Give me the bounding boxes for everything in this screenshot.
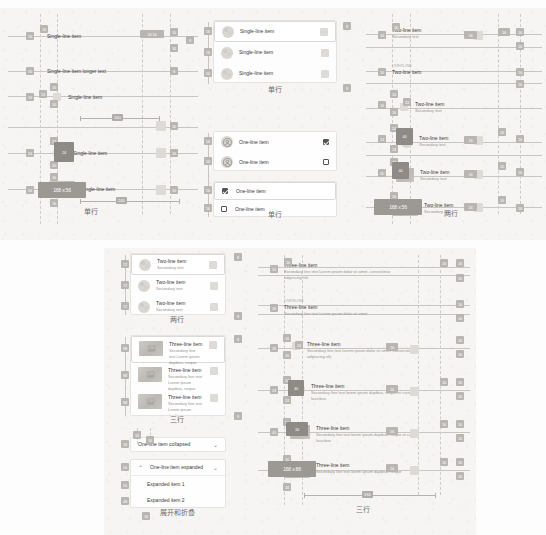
section-caption: 展开和折叠 (160, 509, 195, 518)
trailing-icon[interactable] (156, 185, 166, 195)
spec-badge: 16 (284, 258, 292, 266)
section-caption: 三行 (170, 416, 184, 425)
spec-badge: 40 (270, 428, 278, 436)
spec-badge: 16 (516, 80, 524, 88)
trailing-icon[interactable] (410, 387, 419, 396)
list-item[interactable]: One-line item (214, 132, 336, 152)
spec-badge: 16 (456, 259, 464, 267)
checkbox-checked[interactable] (222, 188, 228, 194)
spec-badge: 16 (392, 23, 400, 31)
trailing-icon[interactable] (410, 429, 419, 438)
list-item-secondary: Secondary line text Lorem ipsum dolor si… (307, 348, 419, 360)
trailing-icon[interactable] (209, 341, 217, 349)
spec-badge: 16 (456, 458, 464, 466)
list-item[interactable]: Single-line item longer text (40, 64, 190, 78)
trailing-icon[interactable] (209, 261, 217, 269)
list-item[interactable]: Three-line item Secondary line text Lore… (292, 341, 442, 360)
list-item[interactable]: One-line item (214, 182, 336, 200)
list-item[interactable]: Two-line item Secondary text (131, 275, 225, 296)
checkbox[interactable] (221, 206, 227, 212)
list-item[interactable]: Single-line item (40, 29, 190, 43)
list-item-text: Single-line item (239, 49, 315, 56)
spec-badge: 16 (170, 122, 178, 130)
list-card-two-line: Two-line item Secondary text Two-line it… (130, 253, 226, 315)
trailing-icon[interactable] (321, 70, 329, 78)
list-item[interactable]: OVERLINE Two-line item (392, 64, 522, 82)
spec-badge: 24 (295, 341, 303, 349)
list-card-three-line: Three-line item Secondary line text Lore… (130, 335, 226, 416)
list-item[interactable]: One-line item (214, 152, 336, 171)
list-item[interactable]: Two-line item Secondary text (131, 296, 225, 315)
list-item-title: Two-line item (156, 279, 204, 286)
trailing-icon[interactable] (210, 367, 218, 375)
list-item-title: One-line item (239, 159, 323, 166)
checkbox-checked[interactable] (323, 139, 329, 145)
list-item-secondary: Secondary text (156, 307, 204, 313)
list-item[interactable]: Three-line item Secondary line text Lore… (131, 390, 225, 416)
expanded-child-label: Expanded item 1 (147, 481, 185, 488)
spec-badge: 56 (204, 69, 212, 77)
spec-badge: 24 (283, 396, 291, 404)
list-item[interactable]: Single-line item (46, 90, 196, 104)
spec-badge: 24 (378, 135, 386, 143)
chevron-up-icon[interactable]: ⌃ (138, 465, 143, 471)
spec-badge: 16 (516, 28, 524, 36)
list-item-text: Single-line item (68, 94, 189, 101)
section-caption: 单行 (84, 208, 98, 217)
trailing-icon[interactable] (210, 282, 218, 290)
spec-badge: 16 (146, 436, 154, 444)
list-item-title: Three-line item (168, 394, 204, 401)
trailing-icon[interactable] (210, 394, 218, 402)
chevron-down-icon[interactable]: ⌄ (213, 465, 218, 471)
spec-badge: 40 (396, 128, 413, 145)
section-caption: 单行 (268, 86, 282, 95)
list-item-title: One-line item (235, 206, 329, 213)
expansion-panel-expanded: ⌃ One-line item expanded ⌄ Expanded item… (130, 459, 226, 508)
spec-badge: 8 (343, 22, 351, 30)
list-item[interactable]: Two-line item Secondary text (131, 254, 225, 275)
list-item[interactable]: Three-line item Secondary line text Lore… (284, 262, 434, 281)
spec-badge: 8 (234, 253, 242, 261)
trailing-icon[interactable] (320, 28, 328, 36)
trailing-icon[interactable] (321, 49, 329, 57)
list-item[interactable]: Two-line item Secondary text (396, 166, 530, 184)
dimension-label: 336 (362, 491, 373, 498)
trailing-icon[interactable] (156, 148, 166, 158)
spec-badge: 16 (142, 512, 150, 520)
spec-badge: 40 (288, 380, 304, 396)
dimension-label: 160 (112, 114, 123, 121)
list-item[interactable]: Three-line item Secondary line text Lore… (131, 363, 225, 390)
expansion-panel-collapsed[interactable]: One-line item collapsed ⌄ (130, 437, 226, 452)
list-item[interactable]: Expanded item 2 (131, 492, 225, 508)
avatar (139, 259, 151, 271)
list-item[interactable]: ⌃ One-line item expanded ⌄ (131, 460, 225, 475)
spec-badge: 16 (170, 28, 178, 36)
list-item-title: Three-line item (284, 262, 434, 269)
trailing-icon[interactable] (210, 303, 218, 311)
spec-badge: 16 (440, 420, 448, 428)
list-item[interactable]: Three-line item Secondary line text lore… (292, 383, 442, 402)
spec-badge: 16 (283, 334, 291, 342)
list-item-secondary: Secondary text (157, 265, 203, 271)
list-item[interactable]: Single-line item (214, 63, 336, 83)
size-badge: 168 x 56 (374, 199, 422, 215)
list-item[interactable]: Three-line item Secondary line text Lore… (131, 336, 225, 363)
list-item[interactable]: Expanded item 1 (131, 476, 225, 492)
thumbnail-image (139, 341, 163, 356)
spec-badge: 16 (516, 135, 524, 143)
trailing-icon[interactable] (410, 345, 419, 354)
spec-badge: 16 (386, 427, 398, 435)
list-item-text: Three-line item Secondary line text Lore… (307, 341, 419, 360)
spec-badge: 16 (456, 314, 464, 322)
list-item[interactable]: OVERLINE Three-line item Secondary line … (284, 299, 434, 317)
chevron-down-icon[interactable]: ⌄ (213, 442, 218, 448)
list-item-title: Single-line item longer text (47, 68, 183, 75)
list-item[interactable]: Two-line item Secondary text (400, 98, 530, 116)
list-item-secondary: Secondary text (156, 286, 204, 292)
dimension-line (80, 201, 180, 202)
trailing-icon[interactable] (156, 121, 166, 131)
checkbox[interactable] (323, 159, 329, 165)
trailing-icon[interactable] (410, 466, 419, 475)
list-item[interactable]: Single-line item (214, 21, 336, 42)
list-item[interactable]: Single-line item (214, 42, 336, 63)
